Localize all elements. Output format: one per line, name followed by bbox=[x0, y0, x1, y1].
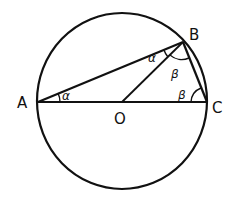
angle-arc-C bbox=[191, 88, 201, 102]
segment-AB bbox=[38, 42, 183, 102]
angle-label-beta-B: β bbox=[170, 67, 179, 81]
angle-label-alpha-B: α bbox=[148, 51, 156, 65]
angle-arc-B-alpha bbox=[164, 50, 168, 57]
angle-label-beta-C: β bbox=[177, 88, 186, 102]
angle-arc-A bbox=[58, 93, 60, 102]
label-A: A bbox=[17, 94, 28, 112]
label-C: C bbox=[212, 99, 222, 117]
geometry-diagram: A B C O α α β β bbox=[0, 0, 239, 203]
angle-arc-B-beta bbox=[170, 55, 189, 59]
label-B: B bbox=[189, 26, 199, 44]
angle-label-alpha-A: α bbox=[62, 89, 70, 103]
label-O: O bbox=[114, 110, 126, 128]
